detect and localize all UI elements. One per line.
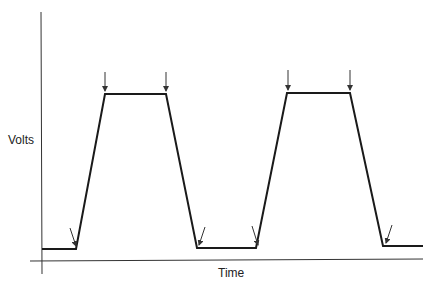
arrow-icon [199,227,205,245]
y-axis [41,12,42,274]
arrow-icon [70,228,76,246]
transition-arrows [70,70,392,246]
waveform-diagram [0,0,431,286]
x-axis-label: Time [218,266,244,280]
x-axis [30,259,423,261]
y-axis-label: Volts [8,133,34,147]
arrow-icon [386,225,392,243]
arrow-icon [252,226,258,245]
waveform-line [42,93,423,249]
